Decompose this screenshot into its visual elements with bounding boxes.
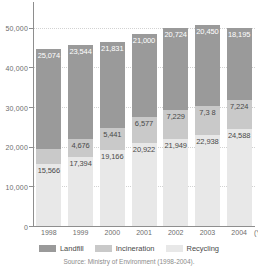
bar-segment-incineration[interactable]: 7,229	[163, 110, 188, 139]
bar-value-label: 15,566	[36, 166, 61, 175]
bar-segment-landfill[interactable]: 21,831	[100, 42, 125, 129]
bar-value-label: 23,544	[68, 47, 93, 56]
x-axis-tick-label: 1999	[64, 229, 98, 236]
y-axis-tick-label: 30,000	[0, 104, 28, 111]
bar-column[interactable]: 24,5887,22418,195	[227, 8, 252, 226]
bar-column[interactable]: 22,9387,3 820,450	[195, 8, 220, 226]
bar-value-label: 19,166	[100, 152, 125, 161]
bar-value-label: 20,922	[132, 145, 157, 154]
bar-value-label: 21,949	[163, 141, 188, 150]
bar-segment-recycling[interactable]: 19,166	[100, 150, 125, 226]
y-axis-tick-label: 10,000	[0, 183, 28, 190]
bar-column[interactable]: 15,5663,94325,074	[36, 8, 61, 226]
source-note: Source: Ministry of Environment (1998-20…	[0, 258, 258, 265]
bar-segment-incineration[interactable]: 7,224	[227, 100, 252, 129]
bar-segment-recycling[interactable]: 15,566	[36, 164, 61, 226]
bar-segment-recycling[interactable]: 22,938	[195, 135, 220, 226]
legend-item[interactable]: Recycling	[166, 244, 220, 253]
bar-segment-landfill[interactable]: 21,000	[132, 34, 157, 117]
waste-treatment-stacked-bar-chart: 010,00020,00030,00040,00050,000 15,5663,…	[0, 0, 258, 269]
bar-segment-incineration[interactable]: 4,676	[68, 139, 93, 158]
bar-value-label: 4,676	[68, 141, 93, 150]
x-axis-tick-label: 2003	[190, 229, 224, 236]
bar-value-label: 20,450	[195, 27, 220, 36]
y-axis-tick-label: 40,000	[0, 64, 28, 71]
y-axis-tick-label: 0	[0, 223, 28, 230]
legend-item[interactable]: Landfill	[39, 244, 84, 253]
x-axis-tick-label: 2002	[159, 229, 193, 236]
bar-segment-incineration[interactable]: 3,943	[36, 149, 61, 165]
x-axis-labels: (Year 1998199920002001200220032004	[33, 229, 258, 241]
bar-segment-landfill[interactable]: 23,544	[68, 45, 93, 138]
legend-color-swatch	[166, 245, 183, 252]
x-axis-tick-label: 2000	[95, 229, 129, 236]
x-axis-tick-label: 2004	[222, 229, 256, 236]
bar-segment-landfill[interactable]: 20,450	[195, 25, 220, 106]
bar-segment-incineration[interactable]: 6,577	[132, 117, 157, 143]
bar-value-label: 17,394	[68, 159, 93, 168]
bar-value-label: 24,588	[227, 131, 252, 140]
bar-value-label: 7,229	[163, 112, 188, 121]
legend-item[interactable]: Incineration	[95, 244, 155, 253]
legend-label: Landfill	[60, 244, 84, 253]
legend-label: Incineration	[116, 244, 155, 253]
bar-column[interactable]: 17,3944,67623,544	[68, 8, 93, 226]
bar-value-label: 5,441	[100, 130, 125, 139]
bar-segment-landfill[interactable]: 18,195	[227, 28, 252, 100]
bar-column[interactable]: 19,1665,44121,831	[100, 8, 125, 226]
legend-color-swatch	[95, 245, 112, 252]
bar-value-label: 20,724	[163, 30, 188, 39]
legend-color-swatch	[39, 245, 56, 252]
bar-segment-incineration[interactable]: 7,3 8	[195, 106, 220, 135]
y-axis-tick-mark	[29, 226, 34, 227]
bar-value-label: 6,577	[132, 119, 157, 128]
bar-value-label: 25,074	[36, 51, 61, 60]
y-axis-tick-label: 50,000	[0, 25, 28, 32]
y-axis-tick-label: 20,000	[0, 144, 28, 151]
bar-value-label: 7,224	[227, 102, 252, 111]
bar-value-label: 7,3 8	[195, 108, 220, 117]
bar-value-label: 22,938	[195, 137, 220, 146]
bar-segment-incineration[interactable]: 5,441	[100, 128, 125, 150]
y-axis-tick-row: 0	[0, 226, 258, 227]
bar-group: 15,5663,94325,07417,3944,67623,54419,166…	[33, 8, 255, 226]
bar-segment-landfill[interactable]: 25,074	[36, 49, 61, 148]
bar-segment-recycling[interactable]: 24,588	[227, 129, 252, 226]
bar-segment-recycling[interactable]: 20,922	[132, 143, 157, 226]
legend-label: Recycling	[187, 244, 220, 253]
chart-legend: LandfillIncinerationRecycling	[0, 244, 258, 253]
bar-value-label: 21,831	[100, 44, 125, 53]
x-axis-tick-label: 1998	[32, 229, 66, 236]
bar-segment-recycling[interactable]: 21,949	[163, 139, 188, 226]
bar-column[interactable]: 20,9226,57721,000	[132, 8, 157, 226]
bar-value-label: 21,000	[132, 36, 157, 45]
bar-segment-landfill[interactable]: 20,724	[163, 28, 188, 110]
bar-value-label: 18,195	[227, 30, 252, 39]
bar-segment-recycling[interactable]: 17,394	[68, 157, 93, 226]
x-axis-tick-label: 2001	[127, 229, 161, 236]
bar-column[interactable]: 21,9497,22920,724	[163, 8, 188, 226]
